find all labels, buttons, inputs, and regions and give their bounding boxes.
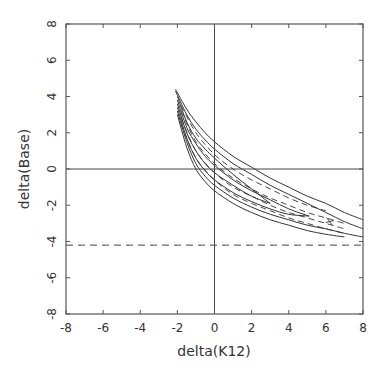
x-tick-label: 2 bbox=[248, 321, 256, 335]
y-tick-label: 6 bbox=[45, 56, 59, 64]
x-tick-label: 8 bbox=[359, 321, 367, 335]
x-tick-label: -2 bbox=[171, 321, 183, 335]
y-tick-label: 4 bbox=[45, 93, 59, 101]
series-line-solid-lower-2 bbox=[177, 115, 344, 237]
reference-lines bbox=[66, 24, 363, 314]
x-tick-label: -4 bbox=[134, 321, 146, 335]
x-tick-labels: -8-6-4-202468 bbox=[60, 321, 367, 335]
y-tick-label: -6 bbox=[45, 272, 59, 284]
x-tick-label: -8 bbox=[60, 321, 72, 335]
y-tick-labels: -8-6-4-202468 bbox=[45, 20, 59, 320]
x-tick-label: 4 bbox=[285, 321, 293, 335]
y-tick-label: -8 bbox=[45, 308, 59, 320]
plot-series-group bbox=[176, 89, 364, 237]
y-tick-label: 0 bbox=[45, 165, 59, 173]
y-tick-label: 8 bbox=[45, 20, 59, 28]
x-tick-label: -6 bbox=[97, 321, 109, 335]
x-axis-label: delta(K12) bbox=[177, 343, 250, 359]
line-chart: -8-6-4-202468 -8-6-4-202468 delta(K12) d… bbox=[0, 0, 384, 377]
y-tick-label: -2 bbox=[45, 199, 59, 211]
y-tick-label: -4 bbox=[45, 236, 59, 248]
y-axis-label: delta(Base) bbox=[16, 129, 32, 209]
x-tick-label: 6 bbox=[322, 321, 330, 335]
y-tick-label: 2 bbox=[45, 129, 59, 137]
series-line-solid-lower-1 bbox=[177, 111, 363, 237]
series-line-solid-loop-b-upper bbox=[177, 100, 309, 216]
x-tick-label: 0 bbox=[211, 321, 219, 335]
